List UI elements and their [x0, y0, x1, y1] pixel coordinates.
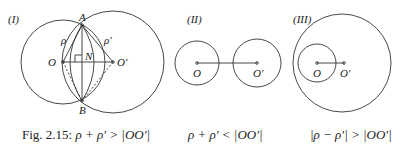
- label-n: N: [84, 50, 93, 62]
- segment-o-prime-b-dashed: [82, 62, 113, 101]
- label-o-panel1: O: [48, 56, 56, 68]
- label-o-prime-panel3: O′: [340, 67, 351, 79]
- lens-arc-right: [82, 25, 94, 101]
- right-angle-mark: [75, 55, 82, 62]
- caption-panel2: ρ + ρ′ < |OO′|: [188, 127, 263, 143]
- label-rho: ρ: [60, 34, 66, 46]
- label-b: B: [79, 104, 86, 116]
- label-o-prime-panel2: O′: [253, 67, 264, 79]
- panel-label-1: (I): [8, 13, 19, 26]
- panel-label-2: (II): [187, 13, 202, 26]
- label-a: A: [78, 11, 86, 23]
- caption-panel1: Fig. 2.15: ρ + ρ′ > |OO′|: [22, 127, 150, 143]
- panel-label-3: (III): [293, 13, 312, 26]
- caption-formula-2: ρ + ρ′ < |OO′|: [188, 127, 263, 142]
- label-o-panel2: O: [193, 67, 201, 79]
- label-o-prime-panel1: O′: [117, 56, 128, 68]
- caption-panel3: |ρ − ρ′| > |OO′|: [310, 127, 392, 143]
- label-rho-prime: ρ′: [103, 34, 112, 46]
- label-o-panel3: O: [313, 67, 321, 79]
- caption-formula-3: |ρ − ρ′| > |OO′|: [310, 127, 392, 142]
- caption-prefix: Fig. 2.15:: [22, 127, 75, 142]
- caption-formula-1: ρ + ρ′ > |OO′|: [75, 127, 150, 142]
